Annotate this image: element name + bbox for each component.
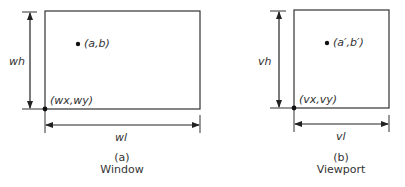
viewport-height-label: vh: [258, 55, 271, 68]
viewport-point-dot: [325, 41, 329, 45]
window-origin-dot: [43, 107, 48, 112]
viewport-width-label: vl: [336, 130, 346, 143]
viewport-point-label: (a′,b′): [333, 36, 364, 49]
viewport-caption: (b) Viewport: [301, 152, 381, 176]
window-point-dot: [76, 42, 80, 46]
window-origin-label: (wx,wy): [50, 94, 93, 107]
viewport-origin-dot: [292, 106, 297, 111]
viewport-origin-label: (vx,vy): [299, 93, 337, 106]
viewport-caption-title: Viewport: [301, 164, 381, 176]
window-width-label: wl: [115, 131, 127, 144]
window-caption: (a) Window: [82, 152, 162, 176]
window-height-label: wh: [9, 55, 25, 68]
window-point-label: (a,b): [84, 37, 110, 50]
window-caption-title: Window: [82, 164, 162, 176]
